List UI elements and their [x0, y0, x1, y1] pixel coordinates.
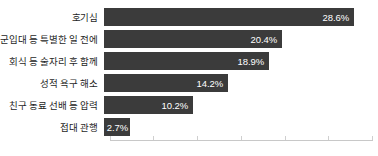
horizontal-bar-chart: 호기심 28.6% 군입대 등 특별한 일 전에 20.4% 회식 등 술자리 …: [0, 0, 378, 156]
bar-track: 14.2%: [104, 74, 378, 92]
table-row: 친구 동료 선배 등 압력 10.2%: [0, 96, 378, 114]
axis-tick: [285, 136, 286, 140]
bar-value-label: 14.2%: [197, 78, 223, 89]
axis-tick: [372, 136, 373, 140]
bar-value-label: 18.9%: [238, 56, 264, 67]
table-row: 회식 등 술자리 후 함께 18.9%: [0, 52, 378, 70]
table-row: 군입대 등 특별한 일 전에 20.4%: [0, 30, 378, 48]
bar[interactable]: 2.7%: [104, 118, 130, 136]
bar[interactable]: 18.9%: [104, 52, 269, 70]
bar-track: 10.2%: [104, 96, 378, 114]
bar-track: 28.6%: [104, 8, 378, 26]
table-row: 호기심 28.6%: [0, 8, 378, 26]
axis-tick: [241, 136, 242, 140]
chart-plot-area: 호기심 28.6% 군입대 등 특별한 일 전에 20.4% 회식 등 술자리 …: [0, 8, 378, 140]
table-row: 접대 관행 2.7%: [0, 118, 378, 136]
axis-tick: [110, 136, 111, 140]
bar[interactable]: 20.4%: [104, 30, 282, 48]
category-label: 성적 욕구 해소: [0, 78, 104, 89]
x-axis-line: [110, 140, 373, 141]
bar[interactable]: 14.2%: [104, 74, 228, 92]
bar-track: 18.9%: [104, 52, 378, 70]
category-label: 친구 동료 선배 등 압력: [0, 100, 104, 111]
category-label: 접대 관행: [0, 122, 104, 133]
table-row: 성적 욕구 해소 14.2%: [0, 74, 378, 92]
bar-value-label: 10.2%: [162, 100, 188, 111]
bar[interactable]: 28.6%: [104, 8, 354, 26]
axis-tick: [153, 136, 154, 140]
bar-track: 20.4%: [104, 30, 378, 48]
bar[interactable]: 10.2%: [104, 96, 193, 114]
axis-tick: [328, 136, 329, 140]
category-label: 호기심: [0, 12, 104, 23]
category-label: 군입대 등 특별한 일 전에: [0, 34, 104, 45]
bar-track: 2.7%: [104, 118, 378, 136]
bar-value-label: 2.7%: [107, 122, 128, 133]
bar-value-label: 28.6%: [323, 12, 349, 23]
bar-value-label: 20.4%: [251, 34, 277, 45]
category-label: 회식 등 술자리 후 함께: [0, 56, 104, 67]
axis-tick: [197, 136, 198, 140]
